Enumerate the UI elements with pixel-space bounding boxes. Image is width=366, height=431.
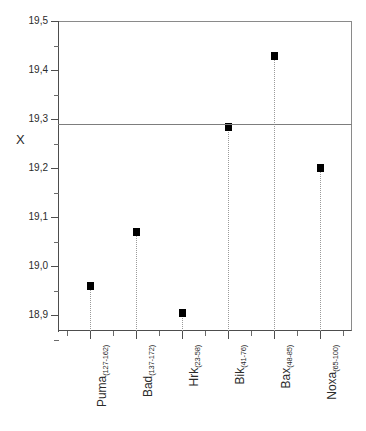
x-tick-major	[228, 331, 229, 339]
data-point-dropline	[90, 286, 92, 331]
x-tick-major	[182, 331, 183, 339]
plot-frame	[58, 21, 352, 331]
data-point-marker	[317, 164, 324, 172]
chart-container: X 19,519,419,319,219,119,018,9 Puma(127-…	[0, 0, 366, 431]
x-axis-category-label: Noxa(65-100)	[326, 345, 342, 400]
data-point-dropline	[320, 168, 322, 331]
y-tick-major	[51, 70, 59, 71]
data-point-marker	[133, 228, 140, 236]
y-tick-minor	[54, 291, 59, 292]
x-axis-category-label: Bad(137-172)	[142, 345, 158, 397]
category-range: (127-162)	[101, 345, 110, 376]
y-tick-major	[51, 315, 59, 316]
data-point-marker	[271, 52, 278, 60]
y-tick-minor	[54, 340, 59, 341]
category-name: Puma	[95, 376, 109, 407]
x-tick-minor	[297, 331, 298, 336]
x-tick-major	[320, 331, 321, 339]
y-tick-major	[51, 119, 59, 120]
category-range: (137-172)	[147, 345, 156, 376]
category-name: Bad	[141, 376, 155, 397]
data-point-dropline	[228, 127, 230, 331]
x-axis-category-label: Puma(127-162)	[96, 345, 112, 407]
y-tick-major	[51, 21, 59, 22]
y-tick-label: 18,9	[8, 310, 48, 320]
y-tick-label: 19,1	[8, 212, 48, 222]
category-range: (23-58)	[193, 345, 202, 368]
reference-line-segment	[58, 124, 352, 125]
x-tick-minor	[113, 331, 114, 336]
category-name: Bax	[279, 368, 293, 389]
y-tick-major	[51, 168, 59, 169]
data-point-marker	[87, 282, 94, 290]
category-name: Bik	[233, 368, 247, 385]
data-point-marker	[179, 309, 186, 317]
data-point-dropline	[274, 56, 276, 331]
y-tick-label: 19,5	[8, 16, 48, 26]
x-tick-minor	[205, 331, 206, 336]
data-point-dropline	[136, 232, 138, 331]
y-tick-label: 19,0	[8, 261, 48, 271]
y-tick-minor	[54, 95, 59, 96]
category-name: Noxa	[325, 372, 339, 400]
category-name: Hrk	[187, 368, 201, 387]
y-tick-minor	[54, 242, 59, 243]
y-tick-minor	[54, 46, 59, 47]
category-range: (65-100)	[331, 345, 340, 372]
x-tick-major	[136, 331, 137, 339]
category-range: (41-76)	[239, 345, 248, 368]
y-axis-title: X	[16, 133, 25, 146]
x-axis-category-label: Hrk(23-58)	[188, 345, 204, 386]
y-tick-label: 19,4	[8, 65, 48, 75]
y-tick-minor	[54, 144, 59, 145]
x-tick-minor	[159, 331, 160, 336]
y-axis-line	[58, 21, 59, 332]
y-tick-major	[51, 217, 59, 218]
category-range: (48-85)	[285, 345, 294, 368]
x-axis-category-label: Bax(48-85)	[280, 345, 296, 388]
x-tick-minor	[251, 331, 252, 336]
y-tick-minor	[54, 193, 59, 194]
x-axis-category-label: Bik(41-76)	[234, 345, 250, 384]
x-tick-minor	[67, 331, 68, 336]
x-tick-major	[90, 331, 91, 339]
y-tick-major	[51, 266, 59, 267]
x-tick-major	[274, 331, 275, 339]
y-tick-label: 19,3	[8, 114, 48, 124]
x-tick-minor	[343, 331, 344, 336]
y-tick-label: 19,2	[8, 163, 48, 173]
